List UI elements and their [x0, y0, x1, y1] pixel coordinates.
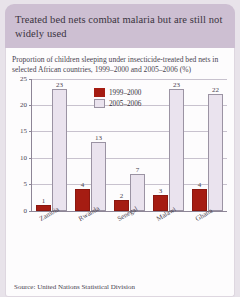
page-title: Treated bed nets combat malaria but are … [15, 13, 225, 40]
bar-value-label: 23 [173, 81, 180, 89]
bar-value-label: 2 [120, 192, 124, 200]
bar-group: 323 [149, 79, 188, 211]
y-axis: 0510152025 [12, 79, 29, 211]
x-label-cell: Rwanda [70, 213, 109, 243]
chart-card: Proportion of children sleeping under in… [5, 48, 235, 280]
y-tick-label: 5 [24, 180, 28, 188]
source-bar: Source: United Nations Statistical Divis… [5, 280, 235, 297]
bar-value-label: 1 [42, 197, 46, 205]
bar: 13 [91, 142, 106, 211]
y-tickmark [29, 211, 32, 212]
legend-swatch-icon-2005-2006 [94, 99, 105, 108]
bar: 4 [192, 189, 207, 210]
source-text: Source: United Nations Statistical Divis… [14, 283, 226, 291]
bar-group: 123 [32, 79, 71, 211]
y-tick-label: 20 [20, 101, 27, 109]
legend-label-1999-2000: 1999–2000 [109, 89, 141, 97]
bar-value-label: 13 [95, 134, 102, 142]
bar: 4 [75, 189, 90, 210]
chart-legend: 1999–2000 2005–2006 [94, 88, 141, 110]
legend-swatch-icon-1999-2000 [94, 88, 105, 97]
x-axis: ZambiaRwandaSenegalMalawiGhana [31, 213, 227, 243]
legend-item-1999-2000: 1999–2000 [94, 88, 141, 97]
x-label-cell: Malawi [149, 213, 188, 243]
bar-group: 422 [188, 79, 227, 211]
bar: 23 [169, 89, 184, 210]
y-tick-label: 25 [20, 75, 27, 83]
y-tick-label: 0 [24, 207, 28, 215]
bar-value-label: 7 [136, 166, 140, 174]
bar: 23 [52, 89, 67, 210]
bar-value-label: 4 [81, 181, 85, 189]
legend-item-2005-2006: 2005–2006 [94, 99, 141, 108]
legend-label-2005-2006: 2005–2006 [109, 100, 141, 108]
bar-value-label: 23 [56, 81, 63, 89]
x-label-cell: Ghana [188, 213, 227, 243]
chart-subtitle: Proportion of children sleeping under in… [12, 55, 228, 75]
y-tick-label: 15 [20, 127, 27, 135]
x-label-cell: Senegal [109, 213, 148, 243]
header-banner: Treated bed nets combat malaria but are … [5, 4, 235, 48]
bar-value-label: 3 [159, 187, 163, 195]
bar-value-label: 22 [212, 86, 219, 94]
bar: 22 [208, 94, 223, 210]
y-tick-label: 10 [20, 154, 27, 162]
bar-value-label: 4 [198, 181, 202, 189]
x-label-cell: Zambia [31, 213, 70, 243]
